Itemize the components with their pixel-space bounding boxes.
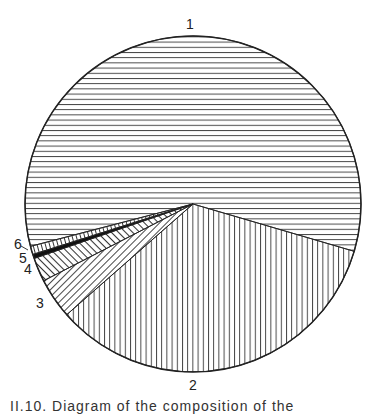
pie-slices — [25, 36, 361, 372]
slice-label-5: 5 — [19, 251, 27, 265]
figure-caption: II.10. Diagram of the composition of the — [10, 398, 294, 414]
slice-label-6: 6 — [14, 237, 22, 251]
slice-label-1: 1 — [186, 17, 194, 31]
slice-label-2: 2 — [189, 378, 197, 392]
slice-label-3: 3 — [36, 296, 44, 310]
